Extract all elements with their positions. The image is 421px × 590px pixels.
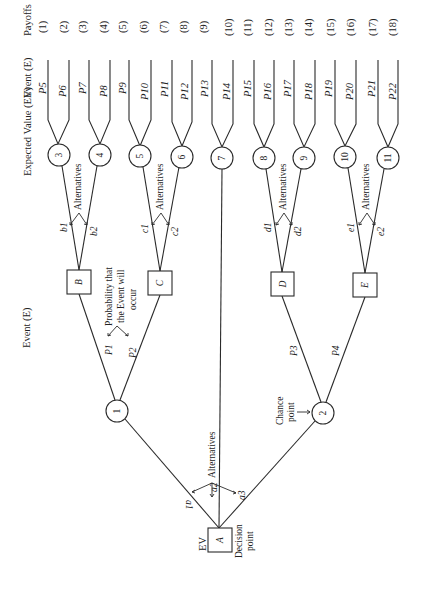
event-p17: P17 — [282, 79, 293, 98]
payoff-18: (18) — [387, 18, 399, 36]
svg-text:A: A — [215, 537, 225, 544]
label-p2: P2 — [128, 347, 138, 359]
svg-text:E: E — [360, 282, 370, 289]
ev-node-11: 11 — [377, 147, 399, 169]
label-a3: a3 — [237, 490, 247, 500]
label-b2: b2 — [89, 226, 99, 236]
payoff-16: (16) — [345, 18, 357, 36]
label-e1: e1 — [346, 223, 356, 232]
event-p13: P13 — [199, 80, 210, 98]
event-p6: P6 — [57, 85, 68, 98]
label-p4: P4 — [331, 345, 341, 357]
event-p5: P5 — [37, 82, 48, 95]
payoff-4: (4) — [98, 20, 110, 33]
alternatives-label-d: Alternatives — [278, 163, 288, 210]
header-expected-value: Expected Value (EV) — [22, 86, 34, 176]
event-p7: P7 — [77, 82, 88, 95]
branch-labels: b1 b2 c1 c2 d1 d2 e1 e2 P1 P2 P3 P4 a1 a… — [59, 223, 386, 510]
alternatives-label-c: Alternatives — [155, 163, 165, 210]
ev-node-3: 3 — [48, 144, 70, 166]
event-p12: P12 — [179, 82, 190, 101]
payoff-10: (10) — [223, 18, 235, 36]
event-labels: P5 P6 P7 P8 P9 P10 P11 P12 P13 P14 P15 P… — [37, 79, 398, 101]
payoff-14: (14) — [303, 18, 315, 36]
ev-node-5: 5 — [129, 145, 151, 167]
label-a1: a1 — [184, 500, 194, 510]
payoff-8: (8) — [178, 20, 190, 33]
svg-text:11: 11 — [383, 153, 393, 162]
event-p19: P19 — [323, 79, 334, 98]
svg-text:4: 4 — [95, 152, 105, 157]
label-e2: e2 — [376, 227, 386, 236]
svg-text:7: 7 — [217, 155, 227, 160]
payoff-7: (7) — [158, 20, 170, 33]
chance-point-text-1: Chance — [275, 397, 285, 426]
payoff-15: (15) — [325, 18, 337, 36]
label-d1: d1 — [263, 223, 273, 233]
label-d2: d2 — [293, 226, 303, 236]
chance-point-text-2: point — [286, 402, 296, 422]
ev-node-4: 4 — [89, 144, 111, 166]
event-p11: P11 — [159, 81, 170, 98]
alternatives-label-a: Alternatives — [207, 431, 217, 478]
decision-point-text-2: point — [245, 531, 255, 551]
svg-text:10: 10 — [340, 152, 350, 162]
svg-text:C: C — [155, 279, 165, 286]
decision-node-b: B — [67, 270, 91, 294]
payoff-5: (5) — [117, 20, 129, 33]
ev-node-8: 8 — [253, 147, 275, 169]
header-payoffs: Payoffs — [22, 4, 33, 36]
event-p16: P16 — [262, 82, 273, 101]
probability-text-3: occur — [128, 288, 138, 310]
header-event-bottom: Event (E) — [21, 307, 33, 348]
payoff-9: (9) — [198, 20, 210, 33]
probability-text-1: Probability that — [104, 267, 114, 326]
probability-annotation: Probability that the Event will occur — [104, 267, 138, 336]
event-p9: P9 — [117, 82, 128, 95]
svg-text:2: 2 — [318, 410, 328, 415]
decision-tree-diagram: Payoffs Event (E) Expected Value (EV) Ev… — [0, 0, 421, 590]
svg-text:B: B — [74, 279, 84, 285]
ev-nodes: 3 4 5 6 7 8 9 10 11 — [48, 144, 399, 169]
svg-text:3: 3 — [54, 152, 64, 157]
decision-node-a: A — [208, 528, 232, 552]
payoff-labels: (1) (2) (3) (4) (5) (6) (7) (8) (9) (10)… — [37, 18, 399, 36]
decision-node-d: D — [271, 272, 294, 296]
probability-text-2: the Event will — [116, 269, 126, 323]
decision-node-e: E — [353, 273, 377, 297]
payoff-3: (3) — [77, 20, 89, 33]
payoff-6: (6) — [138, 20, 150, 33]
payoff-2: (2) — [58, 20, 70, 33]
event-p8: P8 — [98, 85, 109, 98]
event-p21: P21 — [366, 80, 377, 98]
svg-text:9: 9 — [299, 155, 309, 160]
label-c1: c1 — [140, 224, 150, 233]
event-p14: P14 — [221, 82, 232, 101]
decision-node-c: C — [148, 271, 172, 295]
payoff-1: (1) — [37, 20, 49, 33]
ev-node-10: 10 — [334, 146, 356, 168]
event-p22: P22 — [387, 82, 398, 101]
ev-node-9: 9 — [293, 147, 315, 169]
chance-node-1: 1 — [106, 400, 128, 422]
decision-point-text-1: Decision — [234, 524, 244, 558]
chance-point-annotation: Chance point — [275, 397, 310, 426]
payoff-13: (13) — [283, 18, 295, 36]
payoff-11: (11) — [242, 18, 254, 36]
label-p1: P1 — [104, 344, 114, 356]
event-p20: P20 — [344, 82, 355, 101]
event-p10: P10 — [139, 82, 150, 101]
alternatives-annotations: Alternatives Alternatives Alternatives A… — [70, 163, 375, 497]
alternatives-label-b: Alternatives — [73, 163, 83, 210]
svg-text:5: 5 — [135, 153, 145, 158]
label-b1: b1 — [59, 223, 69, 233]
label-p3: P3 — [289, 345, 299, 357]
svg-text:1: 1 — [112, 408, 122, 413]
outcome-branches — [48, 60, 398, 147]
alternatives-label-e: Alternatives — [361, 163, 371, 210]
ev-node-7: 7 — [211, 147, 233, 169]
svg-text:D: D — [278, 280, 288, 288]
payoff-17: (17) — [367, 18, 379, 36]
svg-text:8: 8 — [259, 155, 269, 160]
svg-text:6: 6 — [177, 154, 187, 159]
